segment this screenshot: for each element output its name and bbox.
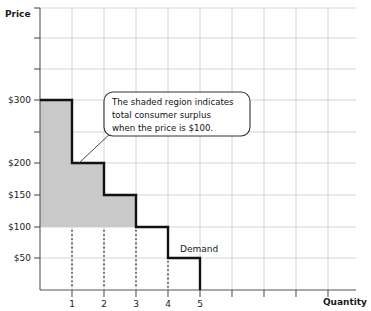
x-tick-label-1: 1 [69,299,75,309]
x-tick-label-2: 2 [101,299,107,309]
callout-line-3: when the price is $100. [112,123,213,133]
x-tick-label-5: 5 [197,299,203,309]
chart-figure: $300 $200 $150 $100 $50 1 2 3 4 5 Price … [0,0,371,311]
y-axis-title: Price [5,9,31,19]
y-tick-label-300: $300 [8,95,31,105]
consumer-surplus-chart: $300 $200 $150 $100 $50 1 2 3 4 5 Price … [0,0,371,311]
demand-curve-label: Demand [180,244,218,254]
y-tick-label-100: $100 [8,222,31,232]
y-tick-label-50: $50 [14,253,31,263]
quantity-drop-lines [72,230,168,288]
x-tick-label-4: 4 [165,299,171,309]
x-tick-label-3: 3 [133,299,139,309]
x-axis-title: Quantity [323,297,367,307]
callout-pointer-tail [79,131,113,163]
y-axis-ticks [34,8,40,258]
y-tick-label-200: $200 [8,158,31,168]
y-tick-label-150: $150 [8,190,31,200]
callout-line-2: total consumer surplus [112,110,211,120]
callout-line-1: The shaded region indicates [111,97,234,107]
x-axis-ticks [72,290,328,297]
